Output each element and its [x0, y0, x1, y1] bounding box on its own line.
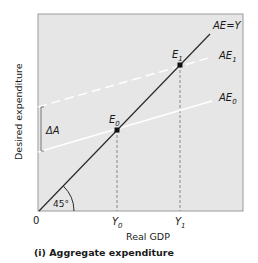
plot-area	[38, 14, 243, 211]
y-axis-label: Desired expenditure	[13, 63, 24, 160]
figure-caption: (i) Aggregate expenditure	[34, 247, 174, 258]
angle-label: 45°	[53, 199, 69, 209]
point-e1	[178, 63, 183, 68]
origin-label: 0	[33, 215, 39, 226]
x-axis-label: Real GDP	[126, 231, 170, 242]
delta-a-label: ΔA	[45, 125, 60, 136]
y1-tick-label: Y1	[175, 216, 186, 230]
ae-equals-y-label: AE=Y	[212, 20, 242, 31]
y0-tick-label: Y0	[112, 216, 123, 230]
point-e0	[115, 128, 120, 133]
aggregate-expenditure-diagram: AE=Y AE1 AE0 E0 E1 ΔA 45° 0 Y0 Y1 Real G…	[0, 0, 258, 263]
